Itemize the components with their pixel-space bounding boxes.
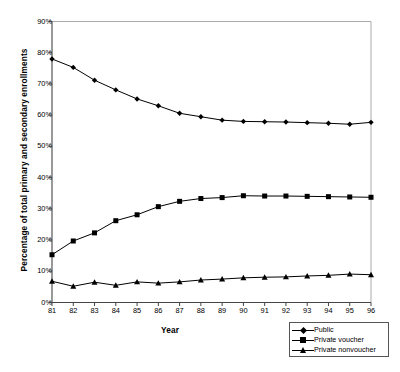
series-1-point (347, 194, 352, 199)
series-0-point (283, 119, 288, 124)
series-0-point (92, 77, 97, 82)
series-0-point (113, 87, 118, 92)
series-0-point (368, 120, 373, 125)
series-1-point (326, 194, 331, 199)
series-1-point (113, 218, 118, 223)
series-0-point (347, 122, 352, 127)
legend-label-private-nonvoucher: Private nonvoucher (314, 345, 376, 355)
series-0-point (219, 117, 224, 122)
series-1-point (135, 212, 140, 217)
legend-item-public: Public (292, 325, 386, 335)
series-1-point (305, 194, 310, 199)
series-0-point (241, 119, 246, 124)
series-1-point (220, 195, 225, 200)
series-1-point (50, 252, 55, 257)
series-1-point (156, 204, 161, 209)
series-0-point (156, 103, 161, 108)
series-1-point (92, 230, 97, 235)
series-1-point (198, 196, 203, 201)
series-line-2 (52, 274, 371, 286)
series-1-point (71, 238, 76, 243)
chart-legend: Public Private voucher Private nonvouche… (289, 322, 389, 357)
series-1-point (283, 194, 288, 199)
series-0-point (134, 96, 139, 101)
series-2-point (92, 279, 98, 284)
legend-label-private-voucher: Private voucher (314, 335, 364, 345)
legend-marker-triangle-icon (292, 345, 314, 355)
legend-label-public: Public (314, 325, 334, 335)
series-0-point (198, 114, 203, 119)
legend-item-private-voucher: Private voucher (292, 335, 386, 345)
legend-item-private-nonvoucher: Private nonvoucher (292, 345, 386, 355)
series-0-point (326, 121, 331, 126)
legend-marker-diamond-icon (292, 325, 314, 335)
series-0-point (49, 56, 54, 61)
series-line-0 (52, 59, 371, 124)
series-1-point (177, 199, 182, 204)
series-0-point (71, 65, 76, 70)
plot-area (0, 0, 400, 372)
series-1-point (241, 193, 246, 198)
legend-marker-square-icon (292, 335, 314, 345)
series-0-point (262, 119, 267, 124)
series-0-point (177, 111, 182, 116)
series-line-1 (52, 196, 371, 255)
series-1-point (369, 195, 374, 200)
series-2-point (49, 278, 55, 283)
series-0-point (305, 120, 310, 125)
series-1-point (262, 194, 267, 199)
chart-container: Percentage of total primary and secondar… (0, 0, 400, 372)
